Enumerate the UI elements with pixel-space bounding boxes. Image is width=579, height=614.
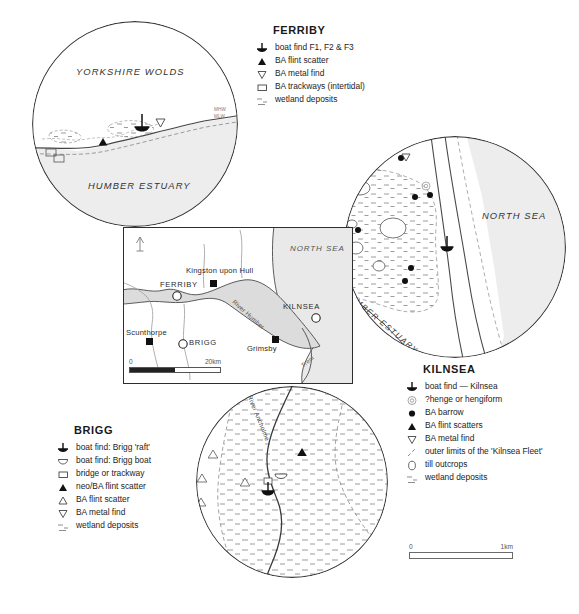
legend-ferriby: FERRIBY boat find F1, F2 & F3 BA flint s… [255, 24, 365, 106]
filled-triangle-icon [405, 420, 419, 432]
legend-row: wetland deposits [405, 471, 543, 484]
legend-kilnsea: KILNSEA boat find — Kilnsea ?henge or he… [405, 363, 543, 484]
legend-item-label: boat find F1, F2 & F3 [275, 43, 354, 51]
legend-item-label: boat find — Kilnsea [425, 382, 498, 390]
legend-row: BA metal find [56, 506, 151, 519]
open-square-icon [56, 468, 70, 480]
legend-item-label: BA metal find [275, 69, 324, 77]
label-kilnsea: KILNSEA [283, 302, 320, 311]
open-triangle-icon [56, 494, 70, 506]
legend-row: BA flint scatters [405, 419, 543, 432]
scalebar-main: 0 1km [409, 543, 513, 559]
open-inverted-triangle-icon [255, 68, 269, 80]
legend-row: neo/BA flint scatter [56, 480, 151, 493]
legend-row: outer limits of the 'Kilnsea Fleet' [405, 445, 543, 458]
legend-item-label: ?henge or hengiform [425, 395, 502, 403]
boat-find-icon [56, 442, 70, 454]
boat-find-icon [405, 381, 419, 393]
scalebar-overview-min: 0 [129, 358, 133, 365]
label-north-sea: NORTH SEA [290, 244, 345, 253]
legend-item-label: BA barrow [425, 408, 464, 416]
scalebar-main-bar [409, 552, 513, 559]
legend-kilnsea-title: KILNSEA [423, 363, 543, 375]
legend-row: boat find: Brigg 'raft' [56, 441, 151, 454]
legend-ferriby-title: FERRIBY [273, 24, 365, 36]
legend-row: BA barrow [405, 406, 543, 419]
legend-row: BA flint scatter [56, 493, 151, 506]
label-scunthorpe: Scunthorpe [126, 328, 167, 337]
wetland-hatch-icon [405, 472, 419, 484]
label-kingston-upon-hull: Kingston upon Hull [186, 266, 253, 275]
legend-item-label: wetland deposits [425, 473, 487, 481]
legend-item-label: BA flint scatter [275, 56, 329, 64]
legend-row: till outcrops [405, 458, 543, 471]
legend-row: bridge or trackway [56, 467, 151, 480]
legend-row: BA metal find [405, 432, 543, 445]
legend-row: boat find — Kilnsea [405, 380, 543, 393]
label-mhw: MHW [214, 107, 226, 112]
figure-root: YORKSHIRE WOLDS HUMBER ESTUARY MHW MLW F… [0, 0, 579, 614]
label-mlw: MLW [214, 114, 225, 119]
legend-item-label: BA trackways (intertidal) [275, 82, 365, 90]
label-brigg: BRIGG [189, 338, 217, 347]
legend-item-label: BA flint scatters [425, 421, 483, 429]
dashed-line-icon [405, 446, 419, 458]
scalebar-overview-max: 20km [205, 358, 221, 365]
label-grimsby: Grimsby [247, 344, 277, 353]
open-square-icon [255, 81, 269, 93]
legend-item-label: wetland deposits [76, 521, 138, 529]
legend-item-label: bridge or trackway [76, 469, 144, 477]
henge-icon [405, 394, 419, 406]
open-inverted-triangle-icon [405, 433, 419, 445]
filled-circle-icon [405, 407, 419, 419]
scalebar-overview-bar [129, 367, 221, 373]
boat-find-icon [255, 42, 269, 54]
legend-row: wetland deposits [56, 519, 151, 532]
legend-item-label: neo/BA flint scatter [76, 482, 146, 490]
legend-row: BA flint scatter [255, 54, 365, 67]
legend-row: wetland deposits [255, 93, 365, 106]
label-humber-estuary: HUMBER ESTUARY [88, 180, 191, 191]
legend-row: ?henge or hengiform [405, 393, 543, 406]
legend-item-label: outer limits of the 'Kilnsea Fleet' [425, 447, 543, 455]
legend-brigg: BRIGG boat find: Brigg 'raft' boat find:… [56, 424, 151, 532]
legend-row: BA metal find [255, 67, 365, 80]
legend-row: BA trackways (intertidal) [255, 80, 365, 93]
legend-item-label: BA flint scatter [76, 495, 130, 503]
scalebar-main-min: 0 [409, 543, 413, 550]
brigg-detail-map: River Ancholme [196, 386, 388, 578]
legend-item-label: boat find: Brigg boat [76, 456, 151, 464]
kilnsea-detail-map: NORTH SEA HUMBER ESTUARY [344, 136, 566, 358]
filled-triangle-icon [56, 481, 70, 493]
open-inverted-triangle-icon [56, 507, 70, 519]
till-outcrop-icon [405, 459, 419, 471]
legend-item-label: BA metal find [425, 434, 474, 442]
ferriby-detail-map: YORKSHIRE WOLDS HUMBER ESTUARY MHW MLW [32, 21, 238, 227]
legend-row: boat find: Brigg boat [56, 454, 151, 467]
legend-row: boat find F1, F2 & F3 [255, 41, 365, 54]
label-ferriby: FERRIBY [160, 280, 198, 289]
logboat-icon [56, 455, 70, 467]
legend-item-label: BA metal find [76, 508, 125, 516]
legend-item-label: wetland deposits [275, 95, 337, 103]
scalebar-overview: 0 20km [129, 358, 221, 373]
wetland-hatch-icon [255, 94, 269, 106]
legend-item-label: till outcrops [425, 460, 467, 468]
legend-item-label: boat find: Brigg 'raft' [76, 443, 150, 451]
wetland-hatch-icon [56, 520, 70, 532]
scalebar-main-max: 1km [501, 543, 513, 550]
filled-triangle-icon [255, 55, 269, 67]
label-yorkshire-wolds: YORKSHIRE WOLDS [76, 66, 185, 77]
label-north-sea: NORTH SEA [482, 210, 546, 221]
legend-brigg-title: BRIGG [74, 424, 151, 436]
